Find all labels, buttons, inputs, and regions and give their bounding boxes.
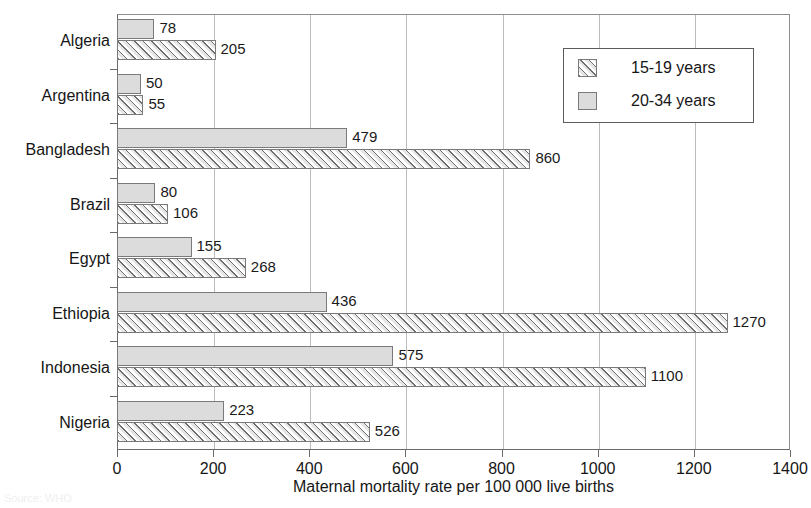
legend-label: 20-34 years — [631, 90, 716, 112]
bar-value-label: 205 — [221, 39, 246, 59]
y-axis-tick — [110, 396, 117, 397]
bar-group: 80106 — [117, 178, 790, 233]
x-axis-title: Maternal mortality rate per 100 000 live… — [117, 477, 790, 496]
y-axis-label-bangladesh: Bangladesh — [0, 140, 110, 160]
legend-label: 15-19 years — [631, 57, 716, 79]
x-axis-tick-1400 — [790, 450, 791, 457]
y-axis-tick — [110, 341, 117, 342]
bar — [117, 422, 370, 442]
y-axis-label-algeria: Algeria — [0, 31, 110, 51]
bar — [117, 19, 154, 39]
y-axis-label-brazil: Brazil — [0, 195, 110, 215]
bar-value-label: 78 — [159, 18, 176, 38]
y-axis-label-egypt: Egypt — [0, 249, 110, 269]
bar — [117, 74, 141, 94]
y-axis-tick — [110, 69, 117, 70]
bar-value-label: 479 — [352, 127, 377, 147]
bar — [117, 204, 168, 224]
y-axis-label-indonesia: Indonesia — [0, 358, 110, 378]
bar-value-label: 436 — [332, 291, 357, 311]
bar-value-label: 106 — [173, 203, 198, 223]
x-axis-tick-1200 — [694, 450, 695, 457]
bar — [117, 292, 327, 312]
bar — [117, 128, 347, 148]
x-axis-tick-label-600: 600 — [392, 459, 419, 478]
bar-value-label: 55 — [148, 94, 165, 114]
bar-value-label: 155 — [197, 236, 222, 256]
bar — [117, 367, 646, 387]
bar — [117, 401, 224, 421]
y-axis-tick — [110, 287, 117, 288]
x-axis-tick-600 — [405, 450, 406, 457]
x-axis-tick-200 — [213, 450, 214, 457]
source-note: Source: WHO — [4, 492, 72, 505]
x-axis-tick-label-200: 200 — [200, 459, 227, 478]
x-axis-tick-400 — [309, 450, 310, 457]
legend-swatch-icon — [578, 92, 597, 110]
y-axis-label-ethiopia: Ethiopia — [0, 304, 110, 324]
bar — [117, 346, 393, 366]
y-axis-tick — [110, 178, 117, 179]
bar-group: 155268 — [117, 232, 790, 287]
bar-group: 4361270 — [117, 287, 790, 342]
legend: 15-19 years20-34 years — [563, 48, 754, 123]
maternal-mortality-bar-chart: 7820550554798608010615526843612705751100… — [0, 0, 811, 508]
bar-value-label: 860 — [535, 148, 560, 168]
x-axis-tick-0 — [117, 450, 118, 457]
bar — [117, 313, 728, 333]
y-axis-labels: AlgeriaArgentinaBangladeshBrazilEgyptEth… — [0, 14, 110, 450]
x-axis-tick-label-800: 800 — [488, 459, 515, 478]
bar-value-label: 526 — [375, 421, 400, 441]
bar-value-label: 268 — [251, 257, 276, 277]
y-axis-tick — [110, 123, 117, 124]
x-axis-tick-label-0: 0 — [113, 459, 122, 478]
bar-value-label: 1270 — [733, 312, 766, 332]
bar-value-label: 575 — [398, 345, 423, 365]
bar — [117, 183, 155, 203]
bar-group: 5751100 — [117, 341, 790, 396]
bar-value-label: 1100 — [651, 366, 683, 386]
bar-group: 223526 — [117, 396, 790, 451]
x-axis-tick-1000 — [598, 450, 599, 457]
y-axis-label-argentina: Argentina — [0, 86, 110, 106]
bar-value-label: 223 — [229, 400, 254, 420]
y-axis-label-nigeria: Nigeria — [0, 413, 110, 433]
x-axis-tick-800 — [502, 450, 503, 457]
y-axis-tick — [110, 232, 117, 233]
bar-group: 479860 — [117, 123, 790, 178]
bar-value-label: 80 — [160, 182, 177, 202]
x-axis-tick-label-1400: 1400 — [772, 459, 808, 478]
x-axis-tick-label-1200: 1200 — [676, 459, 712, 478]
bar — [117, 95, 143, 115]
x-axis-tick-label-400: 400 — [296, 459, 323, 478]
bar-value-label: 50 — [146, 73, 163, 93]
bar — [117, 40, 216, 60]
bar — [117, 149, 530, 169]
bar — [117, 258, 246, 278]
x-axis-tick-label-1000: 1000 — [580, 459, 616, 478]
bar — [117, 237, 192, 257]
legend-swatch-icon — [578, 59, 597, 77]
